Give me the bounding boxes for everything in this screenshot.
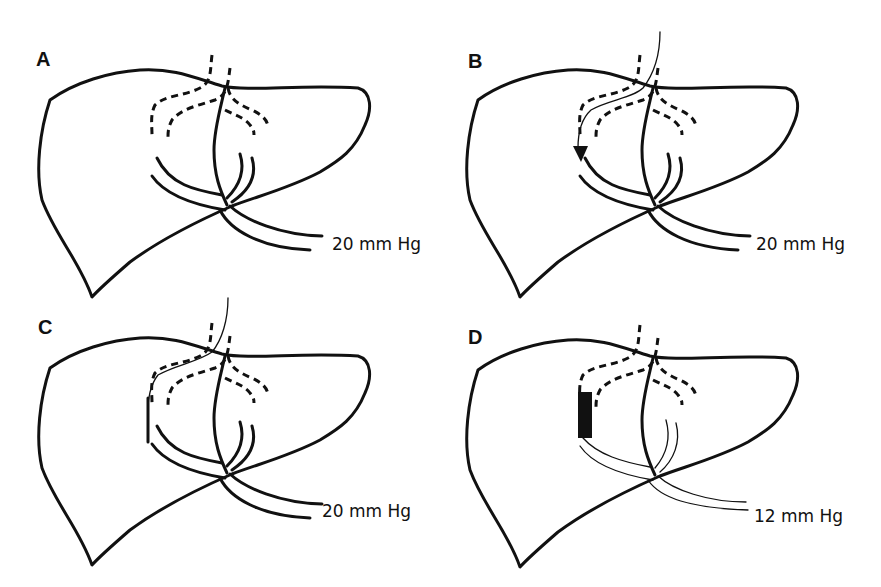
panel-d-pressure-label: 12 mm Hg <box>754 506 843 526</box>
guidewire <box>578 32 660 148</box>
liver-tips-diagram: A 20 mm Hg B 20 mm Hg C 20 mm Hg D <box>0 0 881 587</box>
panel-c: C 20 mm Hg <box>38 298 411 565</box>
panel-a: A 20 mm Hg <box>36 48 421 297</box>
panel-a-label: A <box>36 48 50 70</box>
panel-b-pressure-label: 20 mm Hg <box>756 234 845 254</box>
stent <box>578 392 592 438</box>
panel-c-label: C <box>38 316 52 338</box>
panel-b: B 20 mm Hg <box>467 32 845 297</box>
panel-b-label: B <box>468 50 482 72</box>
panel-d: D 12 mm Hg <box>467 325 843 567</box>
panel-a-pressure-label: 20 mm Hg <box>332 234 421 254</box>
panel-d-label: D <box>468 326 482 348</box>
panel-c-pressure-label: 20 mm Hg <box>322 501 411 521</box>
